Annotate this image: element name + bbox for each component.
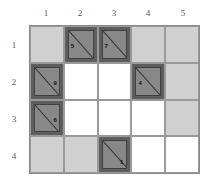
- column-label: 4: [131, 8, 165, 18]
- column-label: 2: [63, 8, 97, 18]
- shaded-cell[interactable]: [165, 26, 199, 63]
- clue-number: 5: [71, 43, 74, 49]
- empty-cell[interactable]: [98, 100, 132, 137]
- shaded-cell[interactable]: [30, 26, 64, 63]
- row-label: 3: [8, 114, 20, 124]
- clue-box: 7: [102, 30, 128, 59]
- clue-cell[interactable]: 9: [30, 63, 64, 100]
- clue-box: 6: [34, 104, 60, 133]
- empty-cell[interactable]: [64, 63, 98, 100]
- shaded-cell[interactable]: [165, 100, 199, 137]
- clue-box: 4: [135, 67, 161, 96]
- clue-number: 6: [53, 117, 56, 123]
- empty-cell[interactable]: [98, 63, 132, 100]
- row-label: 2: [8, 77, 20, 87]
- clue-cell[interactable]: 1: [98, 136, 132, 173]
- shaded-cell[interactable]: [30, 136, 64, 173]
- shaded-cell[interactable]: [64, 136, 98, 173]
- clue-number: 9: [53, 80, 56, 86]
- shaded-cell[interactable]: [131, 26, 165, 63]
- clue-number: 1: [120, 159, 123, 165]
- clue-cell[interactable]: 7: [98, 26, 132, 63]
- row-label: 4: [8, 151, 20, 161]
- puzzle-grid: 579461: [29, 25, 200, 174]
- empty-cell[interactable]: [131, 100, 165, 137]
- clue-number: 7: [105, 43, 108, 49]
- clue-cell[interactable]: 5: [64, 26, 98, 63]
- column-label: 1: [29, 8, 63, 18]
- empty-cell[interactable]: [165, 136, 199, 173]
- clue-box: 5: [68, 30, 94, 59]
- clue-number: 4: [138, 80, 141, 86]
- column-label: 3: [97, 8, 131, 18]
- clue-box: 9: [34, 67, 60, 96]
- clue-cell[interactable]: 4: [131, 63, 165, 100]
- shaded-cell[interactable]: [165, 63, 199, 100]
- clue-box: 1: [102, 140, 128, 169]
- clue-cell[interactable]: 6: [30, 100, 64, 137]
- row-label: 1: [8, 40, 20, 50]
- empty-cell[interactable]: [131, 136, 165, 173]
- column-label: 5: [166, 8, 200, 18]
- empty-cell[interactable]: [64, 100, 98, 137]
